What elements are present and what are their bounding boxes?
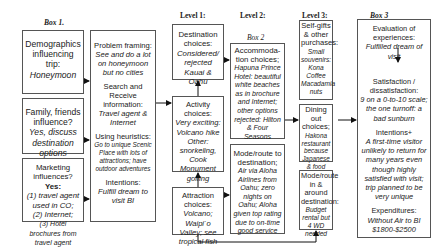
arrow-attraction-around [198, 231, 316, 242]
flow-arrows [0, 0, 440, 252]
